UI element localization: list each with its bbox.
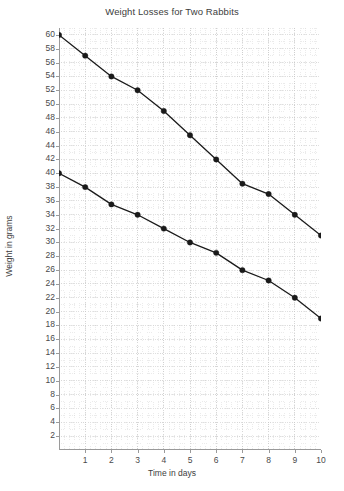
y-axis-tick-label: 4	[15, 417, 55, 426]
data-point	[83, 184, 88, 189]
y-axis-tick-label: 46	[15, 127, 55, 136]
y-axis-tick-label: 56	[15, 58, 55, 67]
x-axis-tick-label: 7	[230, 456, 254, 465]
data-point	[240, 267, 245, 272]
data-point	[240, 181, 245, 186]
x-axis-tick-mark	[269, 450, 270, 453]
y-axis-tick-label: 10	[15, 376, 55, 385]
y-axis-tick-label: 28	[15, 251, 55, 260]
y-axis-tick-label: 60	[15, 30, 55, 39]
y-axis-title-label: Weight in grams	[4, 215, 14, 276]
data-point	[292, 295, 297, 300]
y-axis-tick-label: 14	[15, 348, 55, 357]
y-axis-tick-label: 38	[15, 182, 55, 191]
chart-container: Weight Losses for Two Rabbits Weight in …	[0, 0, 344, 491]
y-axis-tick-label: 22	[15, 293, 55, 302]
x-axis-tick-label: 3	[126, 456, 150, 465]
x-axis-tick-label: 1	[73, 456, 97, 465]
y-axis-tick-label: 44	[15, 141, 55, 150]
x-axis-tick-label: 9	[283, 456, 307, 465]
y-axis-tick-label: 20	[15, 307, 55, 316]
data-point	[266, 191, 271, 196]
data-point	[292, 212, 297, 217]
x-axis-title: Time in days	[0, 468, 344, 478]
data-point	[214, 250, 219, 255]
data-point	[135, 88, 140, 93]
y-axis-tick-label: 34	[15, 210, 55, 219]
data-point	[135, 212, 140, 217]
data-point	[187, 133, 192, 138]
x-axis-tick-label: 4	[152, 456, 176, 465]
y-axis-tick-label: 12	[15, 362, 55, 371]
y-axis-tick-label: 32	[15, 224, 55, 233]
x-axis-tick-mark	[190, 450, 191, 453]
x-axis-tick-mark	[111, 450, 112, 453]
plot-svg	[59, 28, 321, 450]
y-axis-tick-label: 30	[15, 237, 55, 246]
data-point	[187, 240, 192, 245]
y-axis-tick-label: 24	[15, 279, 55, 288]
y-axis-tick-label: 50	[15, 99, 55, 108]
x-axis-tick-label: 2	[99, 456, 123, 465]
y-axis-tick-label: 26	[15, 265, 55, 274]
y-axis-tick-label: 16	[15, 334, 55, 343]
data-point	[266, 278, 271, 283]
data-point	[109, 202, 114, 207]
x-axis-tick-mark	[85, 450, 86, 453]
y-axis-tick-label: 40	[15, 168, 55, 177]
x-axis-tick-mark	[242, 450, 243, 453]
y-axis-tick-label: 6	[15, 403, 55, 412]
x-axis-tick-mark	[295, 450, 296, 453]
data-point	[214, 157, 219, 162]
y-axis-tick-label: 18	[15, 320, 55, 329]
x-axis-tick-label: 6	[204, 456, 228, 465]
y-axis-tick-label: 58	[15, 44, 55, 53]
x-axis-tick-label: 5	[178, 456, 202, 465]
y-axis-title: Weight in grams	[2, 0, 16, 491]
x-axis-tick-mark	[321, 450, 322, 453]
y-axis-tick-label: 52	[15, 85, 55, 94]
data-point	[161, 108, 166, 113]
data-point	[161, 226, 166, 231]
y-axis-tick-label: 54	[15, 71, 55, 80]
x-axis-tick-mark	[138, 450, 139, 453]
data-point	[83, 53, 88, 58]
y-axis-tick-label: 2	[15, 431, 55, 440]
y-axis-tick-label: 8	[15, 390, 55, 399]
x-axis-tick-mark	[164, 450, 165, 453]
y-axis-tick-label: 36	[15, 196, 55, 205]
y-axis-tick-label: 48	[15, 113, 55, 122]
chart-title: Weight Losses for Two Rabbits	[0, 6, 344, 17]
plot-area	[59, 28, 321, 450]
y-axis-tick-label: 42	[15, 154, 55, 163]
x-axis-tick-mark	[216, 450, 217, 453]
data-point	[109, 74, 114, 79]
x-axis-tick-label: 8	[257, 456, 281, 465]
x-axis-tick-label: 10	[309, 456, 333, 465]
